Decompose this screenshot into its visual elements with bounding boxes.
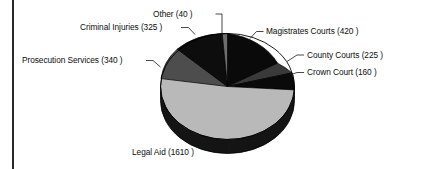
pie-label-magistrates-courts: Magistrates Courts (420 ): [266, 27, 358, 35]
leader-line-county-courts: [287, 55, 304, 62]
pie-label-prosecution-services: Prosecution Services (340 ): [22, 56, 123, 64]
pie-label-crown-court: Crown Court (160 ): [307, 68, 377, 76]
pie-label-legal-aid: Legal Aid (1610 ): [132, 148, 194, 156]
pie-label-criminal-injuries: Criminal Injuries (325 ): [80, 23, 162, 31]
leader-line-criminal-injuries: [181, 28, 195, 35]
pie-chart-graphic: [0, 0, 428, 169]
pie-label-county-courts: County Courts (225 ): [307, 51, 383, 59]
pie-label-other: Other (40 ): [153, 10, 193, 18]
pie-chart-figure: Other (40 ) Criminal Injuries (325 ) Pro…: [0, 0, 428, 169]
leader-line-prosecution-services: [146, 61, 161, 68]
